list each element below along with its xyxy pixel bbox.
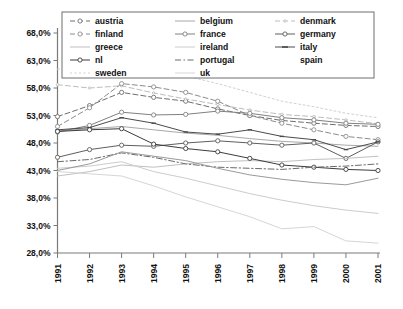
legend-marker-finland xyxy=(78,32,82,36)
legend-marker-germany xyxy=(283,32,287,36)
x-axis: 1991199219931994199519961997199819992000… xyxy=(53,253,384,283)
series-marker-finland xyxy=(344,134,348,138)
series-marker-nl xyxy=(216,150,220,154)
series-marker-finland xyxy=(280,121,284,125)
x-tick-label: 1997 xyxy=(245,264,255,283)
series-line-uk xyxy=(58,172,379,244)
y-axis: 68,0%63,0%58,0%53,0%48,0%43,0%38,0%33,0%… xyxy=(26,28,57,258)
x-tick-label: 1999 xyxy=(309,264,319,283)
series-marker-denmark xyxy=(185,98,187,100)
series-marker-denmark xyxy=(56,84,58,86)
y-tick-label: 63,0% xyxy=(26,56,51,66)
series-marker-france xyxy=(120,110,124,114)
series-marker-austria xyxy=(152,95,156,99)
series-marker-france xyxy=(280,116,284,120)
legend-label-ireland: ireland xyxy=(200,42,228,52)
x-tick-label: 1992 xyxy=(85,264,95,283)
line-chart: 68,0%63,0%58,0%53,0%48,0%43,0%38,0%33,0%… xyxy=(0,0,403,309)
series-marker-france xyxy=(184,112,188,116)
x-tick-label: 1998 xyxy=(277,264,287,283)
series-line-greece xyxy=(58,156,379,176)
legend-marker-france xyxy=(183,32,187,36)
y-tick-label: 58,0% xyxy=(26,83,51,93)
legend-marker-austria xyxy=(78,19,82,23)
series-marker-france xyxy=(248,111,252,115)
x-tick-label: 1991 xyxy=(53,264,63,283)
legend-label-sweden: sweden xyxy=(95,68,127,78)
y-tick-label: 48,0% xyxy=(26,138,51,148)
series-marker-nl xyxy=(55,129,59,133)
x-tick-label: 1995 xyxy=(181,264,191,283)
y-tick-label: 33,0% xyxy=(26,221,51,231)
series-marker-france xyxy=(216,109,220,113)
series-marker-nl xyxy=(120,127,124,131)
series-line-ireland xyxy=(58,162,379,214)
series-marker-nl xyxy=(280,163,284,167)
series-marker-germany xyxy=(248,141,252,145)
series-marker-finland xyxy=(152,85,156,89)
series-marker-germany xyxy=(120,143,124,147)
series-group xyxy=(55,61,380,244)
series-marker-finland xyxy=(216,99,220,103)
legend-label-france: france xyxy=(200,29,226,39)
series-marker-finland xyxy=(184,90,188,94)
series-marker-germany xyxy=(87,148,91,152)
x-tick-label: 2000 xyxy=(341,264,351,283)
series-marker-nl xyxy=(87,128,91,132)
series-marker-finland xyxy=(312,128,316,132)
legend: austriafinlandgreecenlswedenbelgiumfranc… xyxy=(62,12,374,78)
series-marker-nl xyxy=(248,156,252,160)
series-marker-france xyxy=(312,118,316,122)
legend-label-belgium: belgium xyxy=(200,16,233,26)
legend-label-italy: italy xyxy=(300,42,317,52)
x-tick-label: 1996 xyxy=(213,264,223,283)
series-marker-france xyxy=(152,113,156,117)
legend-marker-nl xyxy=(78,58,82,62)
legend-item-spain[interactable]: spain xyxy=(300,55,322,65)
legend-label-finland: finland xyxy=(95,29,123,39)
series-marker-france xyxy=(376,122,380,126)
series-marker-denmark xyxy=(152,92,154,94)
series-marker-nl xyxy=(344,167,348,171)
legend-label-greece: greece xyxy=(95,42,123,52)
legend-marker-denmark xyxy=(284,20,286,22)
x-tick-label: 1993 xyxy=(117,264,127,283)
series-marker-nl xyxy=(184,146,188,150)
series-marker-finland xyxy=(87,106,91,110)
legend-label-portugal: portugal xyxy=(200,55,234,65)
series-marker-germany xyxy=(312,141,316,145)
x-tick-label: 2001 xyxy=(373,264,383,283)
series-marker-finland xyxy=(120,82,124,86)
series-marker-germany xyxy=(55,155,59,159)
y-tick-label: 43,0% xyxy=(26,166,51,176)
series-marker-nl xyxy=(376,168,380,172)
series-marker-denmark xyxy=(88,87,90,89)
series-marker-germany xyxy=(280,143,284,147)
y-tick-label: 53,0% xyxy=(26,111,51,121)
y-tick-label: 68,0% xyxy=(26,28,51,38)
series-marker-germany xyxy=(216,139,220,143)
chart-container: 68,0%63,0%58,0%53,0%48,0%43,0%38,0%33,0%… xyxy=(0,0,403,309)
series-marker-france xyxy=(344,121,348,125)
series-marker-finland xyxy=(55,124,59,128)
y-tick-label: 38,0% xyxy=(26,193,51,203)
x-tick-label: 1994 xyxy=(149,264,159,283)
series-marker-austria xyxy=(120,90,124,94)
legend-label-denmark: denmark xyxy=(300,16,336,26)
series-marker-austria xyxy=(55,115,59,119)
legend-label-germany: germany xyxy=(300,29,336,39)
series-marker-nl xyxy=(152,142,156,146)
series-line-portugal xyxy=(58,153,379,170)
series-marker-germany xyxy=(184,141,188,145)
legend-label-austria: austria xyxy=(95,16,123,26)
legend-label-nl: nl xyxy=(95,55,103,65)
y-tick-label: 28,0% xyxy=(26,248,51,258)
legend-label-spain: spain xyxy=(300,55,322,65)
legend-label-uk: uk xyxy=(200,68,210,78)
